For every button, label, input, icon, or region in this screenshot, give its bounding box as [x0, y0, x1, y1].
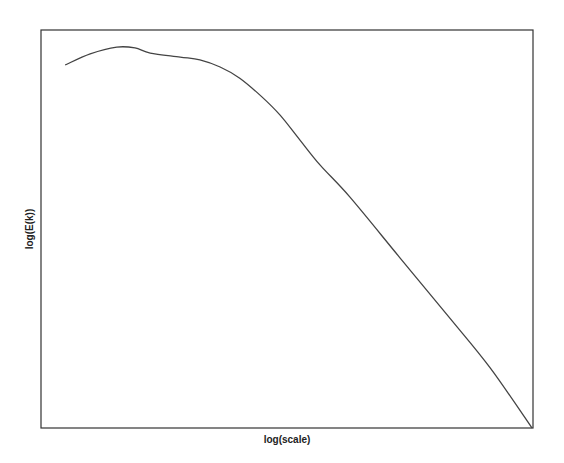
- y-axis-label: log(E(k)): [24, 209, 35, 250]
- series-line-0: [65, 47, 532, 428]
- plot-frame: [41, 30, 533, 428]
- chart: log(scale) log(E(k)): [0, 0, 564, 463]
- x-axis-label: log(scale): [264, 434, 311, 445]
- series-layer: [65, 47, 532, 428]
